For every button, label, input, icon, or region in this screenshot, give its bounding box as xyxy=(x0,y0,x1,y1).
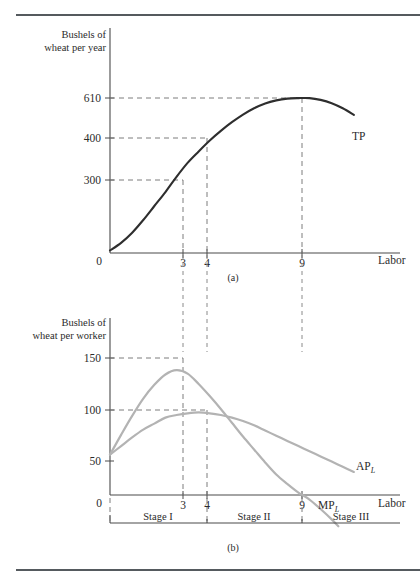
panel-b-x-tick-3: 3 xyxy=(180,499,186,511)
panel-b-x-axis-title: Labor xyxy=(378,497,406,509)
panel-a: Bushels of wheat per year Labor 0 610 40… xyxy=(44,28,405,284)
panel-a-caption: (a) xyxy=(227,272,238,284)
stage-label-3: Stage III xyxy=(333,511,370,522)
panel-b-caption: (b) xyxy=(227,542,239,554)
panel-a-y-tick-400: 400 xyxy=(84,132,102,144)
panel-b: Bushels of wheat per worker Labor 0 150 … xyxy=(33,317,406,554)
total-product-curve-label: TP xyxy=(352,130,365,142)
panel-b-guides xyxy=(110,358,302,498)
panel-b-y-tick-50: 50 xyxy=(90,455,102,467)
panel-b-y-axis-title-line1: Bushels of xyxy=(61,317,106,328)
panel-b-y-tick-150: 150 xyxy=(84,352,102,364)
panel-a-y-tick-610: 610 xyxy=(84,92,102,104)
panel-a-origin-label: 0 xyxy=(96,255,102,267)
stage-label-1: Stage I xyxy=(143,511,173,522)
stage-label-2: Stage II xyxy=(238,511,271,522)
panel-b-x-ticks: 3 4 9 xyxy=(180,491,305,511)
panel-a-x-axis-title: Labor xyxy=(378,254,406,266)
panel-a-y-tick-300: 300 xyxy=(84,174,102,186)
panel-a-guides xyxy=(110,98,302,253)
panel-a-y-axis-title-line1: Bushels of xyxy=(61,29,106,40)
figure-svg: Bushels of wheat per year Labor 0 610 40… xyxy=(0,0,420,584)
panel-b-y-axis-title-line2: wheat per worker xyxy=(33,330,107,341)
panel-b-origin-label: 0 xyxy=(96,497,102,509)
total-product-curve xyxy=(110,98,354,251)
figure-container: Bushels of wheat per year Labor 0 610 40… xyxy=(0,0,420,584)
panel-a-x-ticks: 3 4 9 xyxy=(180,249,305,269)
panel-a-y-axis-title-line2: wheat per year xyxy=(44,42,106,53)
average-product-curve-label: APL xyxy=(356,460,376,475)
panel-b-y-tick-100: 100 xyxy=(84,404,102,416)
panel-connectors xyxy=(183,255,302,352)
